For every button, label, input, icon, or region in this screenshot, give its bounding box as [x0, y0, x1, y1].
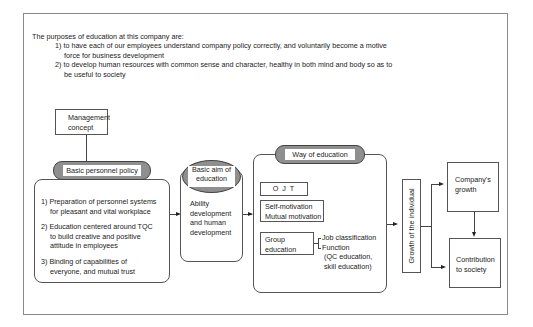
policy-item-2-line3: attitude in employees: [41, 241, 169, 251]
purpose-1-line2: force for business development: [55, 51, 387, 61]
group-education-detail: Job classification Function (QC educatio…: [322, 233, 376, 271]
arrow-right-icon: [393, 222, 398, 226]
personnel-policy-box: 1) Preparation of personnel systems for …: [34, 179, 170, 283]
purpose-2-line2: be useful to society: [55, 70, 392, 80]
bracket-line: [318, 238, 321, 239]
arrow-right-icon: [439, 182, 444, 186]
way-of-education-box: [253, 154, 387, 293]
policy-item-1: 1) Preparation of personnel systems for …: [41, 197, 169, 216]
management-concept-line2: concept: [68, 123, 107, 133]
way-of-education-header: Way of education: [275, 145, 365, 164]
policy-item-2: 2) Education centered around TQC to buil…: [41, 222, 169, 251]
basic-aim-header: Basic aim of education: [182, 160, 241, 193]
contribution-line1: Contribution: [456, 255, 500, 265]
purpose-2: 2) to develop human resources with commo…: [55, 60, 392, 79]
group-education-line2: education: [265, 245, 313, 255]
motivation-box: Self-motivation Mutual motivation: [260, 200, 324, 222]
self-motivation-label: Self-motivation: [265, 202, 323, 212]
growth-individual-label: Growth of the individual: [407, 180, 417, 273]
basic-aim-line3: and human: [190, 218, 242, 228]
policy-item-3-line2: everyone, and mutual trust: [41, 267, 169, 277]
purpose-1: 1) to have each of our employees underst…: [55, 41, 387, 60]
personnel-policy-header: Basic personnel policy: [53, 161, 151, 180]
policy-item-3: 3) Binding of capabilities of everyone, …: [41, 257, 169, 276]
connector-line: [421, 226, 431, 227]
company-growth-line2: growth: [455, 185, 498, 195]
way-of-education-title: Way of education: [285, 149, 355, 160]
basic-aim-title-line2: education: [188, 175, 235, 184]
job-classification-label: Job classification: [322, 233, 376, 243]
arrow-right-icon: [441, 265, 446, 269]
group-education-line1: Group: [265, 235, 313, 245]
function-label: Function: [322, 243, 376, 253]
personnel-policy-title: Basic personnel policy: [63, 165, 141, 176]
company-growth-line1: Company's: [455, 175, 498, 185]
policy-item-2-line2: to build creative and positive: [41, 232, 169, 242]
ojt-label: O J T: [273, 184, 295, 193]
purpose-1-line1: 1) to have each of our employees underst…: [55, 41, 387, 51]
skill-education-label: skill education): [322, 262, 376, 272]
ojt-box: O J T: [260, 182, 308, 196]
arrow-down-icon: [472, 232, 476, 237]
policy-item-1-line1: 1) Preparation of personnel systems: [41, 197, 169, 207]
company-growth-box: Company's growth: [447, 162, 499, 212]
purpose-2-line1: 2) to develop human resources with commo…: [55, 60, 392, 70]
basic-aim-line4: development: [190, 228, 242, 238]
basic-aim-line2: development: [190, 209, 242, 219]
connector-line: [474, 212, 475, 234]
contribution-box: Contribution to society: [449, 238, 501, 288]
basic-aim-line1: Ability: [190, 199, 242, 209]
policy-item-2-line1: 2) Education centered around TQC: [41, 222, 169, 232]
qc-education-label: (QC education,: [322, 252, 376, 262]
bracket-line: [318, 248, 321, 249]
policy-item-3-line1: 3) Binding of capabilities of: [41, 257, 169, 267]
connector-line: [431, 184, 432, 267]
basic-aim-title: Basic aim of education: [188, 166, 235, 187]
policy-item-1-line2: for pleasant and vital workplace: [41, 207, 169, 217]
management-concept-box: Management concept: [55, 109, 108, 135]
management-concept-line1: Management: [68, 113, 107, 123]
mutual-motivation-label: Mutual motivation: [265, 212, 323, 222]
group-education-box: Group education: [260, 232, 314, 255]
contribution-line2: to society: [456, 265, 500, 275]
